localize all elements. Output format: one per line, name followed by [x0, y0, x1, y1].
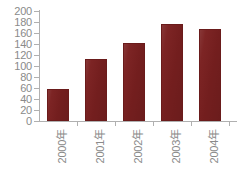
x-axis-tick-mark	[115, 122, 116, 126]
x-axis-label-2003: 2003年	[171, 129, 182, 163]
bar-2003	[161, 24, 183, 121]
x-axis-tick-mark	[191, 122, 192, 126]
x-axis-tick-mark	[229, 122, 230, 126]
x-axis-tick-mark	[153, 122, 154, 126]
x-axis-label-2000: 2000年	[57, 129, 68, 163]
bar-2002	[123, 43, 145, 121]
bar-2000	[47, 89, 69, 121]
plot-area	[40, 11, 236, 121]
bar-2001	[85, 59, 107, 121]
y-axis-tick-label: 0	[0, 116, 32, 127]
x-axis-label-2004: 2004年	[209, 129, 220, 163]
bar-chart: 200 180 160 140 120 100 80 60 40 20 0	[0, 0, 245, 172]
x-axis-label-2001: 2001年	[95, 129, 106, 163]
bar-2004	[199, 29, 221, 121]
y-axis-tick-group: 0	[0, 116, 32, 127]
x-axis-line	[39, 121, 237, 122]
x-axis-tick-mark	[77, 122, 78, 126]
x-axis-label-2002: 2002年	[133, 129, 144, 163]
